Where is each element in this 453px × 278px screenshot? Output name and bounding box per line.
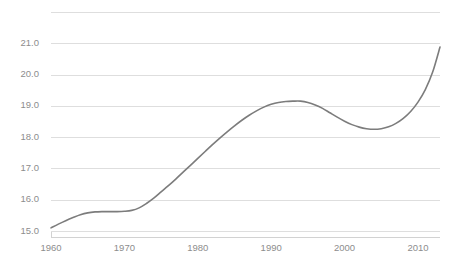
y-tick-label: 21.0	[21, 37, 40, 48]
x-tick-label: 1980	[187, 242, 208, 253]
y-axis-tick-labels: 15.016.017.018.019.020.021.0	[21, 37, 40, 236]
axis-lines	[51, 232, 440, 238]
y-tick-label: 20.0	[21, 68, 40, 79]
y-tick-label: 19.0	[21, 99, 40, 110]
x-tick-label: 2010	[407, 242, 428, 253]
y-tick-label: 15.0	[21, 225, 40, 236]
x-tick-label: 1970	[114, 242, 135, 253]
y-tick-label: 16.0	[21, 193, 40, 204]
y-tick-label: 18.0	[21, 131, 40, 142]
x-tick-label: 1960	[40, 242, 61, 253]
y-tick-label: 17.0	[21, 162, 40, 173]
x-tick-label: 2000	[334, 242, 355, 253]
gridlines	[51, 13, 440, 232]
chart-canvas: 15.016.017.018.019.020.021.0 19601970198…	[0, 0, 453, 278]
x-axis-tick-labels: 196019701980199020002010	[40, 242, 428, 253]
line-chart: 15.016.017.018.019.020.021.0 19601970198…	[0, 0, 453, 278]
x-tick-label: 1990	[261, 242, 282, 253]
